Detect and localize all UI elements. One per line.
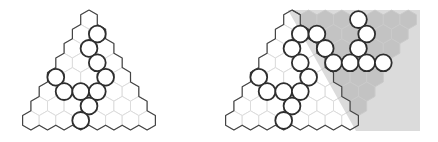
stone-piece xyxy=(275,112,292,129)
stone-piece xyxy=(259,83,276,100)
stone-piece xyxy=(325,54,342,71)
stone-piece xyxy=(358,54,375,71)
stone-piece xyxy=(375,54,392,71)
hex-board-diagram xyxy=(0,0,438,142)
right-rhombus-board xyxy=(0,0,438,142)
stone-piece xyxy=(342,54,359,71)
